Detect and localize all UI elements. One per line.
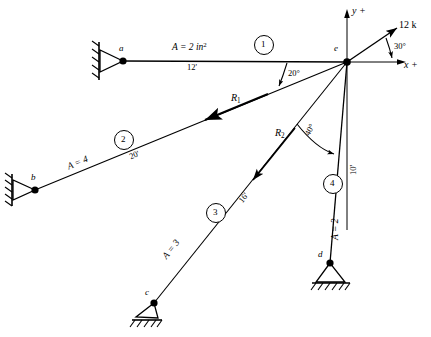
y-axis-label: y + (352, 6, 366, 16)
joint-label-b: b (31, 173, 36, 182)
member-4-length: 10' (349, 165, 358, 175)
diagram-canvas (0, 0, 431, 337)
member-4-number: 4 (330, 179, 335, 188)
member-1-number: 1 (261, 40, 266, 49)
y-axis (344, 9, 350, 230)
member-3-number: 3 (213, 208, 218, 217)
reaction-label-R1: R1 (231, 93, 241, 105)
angle-label-20: 20° (288, 69, 300, 78)
joint-e-dot (343, 58, 351, 66)
member-3-line (154, 62, 347, 303)
joint-label-d: d (318, 250, 323, 259)
member-1-area-text: A = 2 in (172, 42, 203, 52)
joint-label-e: e (334, 44, 338, 53)
angle-arc-30 (386, 38, 392, 58)
member-2-line (35, 62, 347, 190)
joint-label-a: a (119, 44, 124, 53)
reaction-R1-subscript: 1 (237, 97, 241, 105)
reaction-label-R2: R2 (275, 128, 285, 140)
support-d (311, 259, 350, 290)
joint-label-c: c (145, 288, 149, 297)
angle-arc-20 (279, 63, 287, 86)
angle-label-30: 30° (394, 42, 406, 51)
x-axis (347, 59, 406, 65)
load-label-12k: 12 k (399, 20, 417, 30)
support-c (130, 299, 162, 327)
reaction-arrow-R2 (253, 128, 295, 180)
member-1-line (123, 61, 347, 62)
member-2-number: 2 (121, 135, 126, 144)
member-1-area-exponent: 2 (203, 41, 206, 48)
reaction-R2-subscript: 2 (281, 132, 285, 140)
member-1-length: 12' (187, 63, 197, 72)
load-arrow-12k (347, 28, 397, 62)
truss-diagram: y + x + a b c d e 1 2 3 4 A = 2 in2 12' … (0, 0, 431, 337)
member-4-area: A = 2 (331, 218, 341, 240)
x-axis-label: x + (404, 60, 418, 70)
member-1-area: A = 2 in2 (172, 42, 207, 52)
